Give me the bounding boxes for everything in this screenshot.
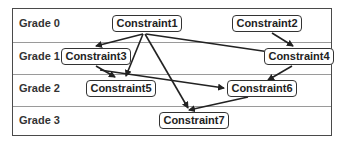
node-constraint2[interactable]: Constraint2: [232, 15, 302, 32]
node-constraint1[interactable]: Constraint1: [112, 15, 182, 32]
edge-c6-c7: [189, 97, 248, 110]
node-constraint3[interactable]: Constraint3: [61, 48, 131, 65]
edge-c1-c3: [96, 34, 143, 46]
edge-c2-c4: [272, 33, 293, 46]
node-constraint5[interactable]: Constraint5: [86, 80, 156, 97]
node-constraint7[interactable]: Constraint7: [159, 112, 229, 129]
edge-c4-c6: [268, 66, 292, 80]
node-constraint4[interactable]: Constraint4: [264, 48, 334, 65]
node-constraint6[interactable]: Constraint6: [227, 80, 297, 97]
